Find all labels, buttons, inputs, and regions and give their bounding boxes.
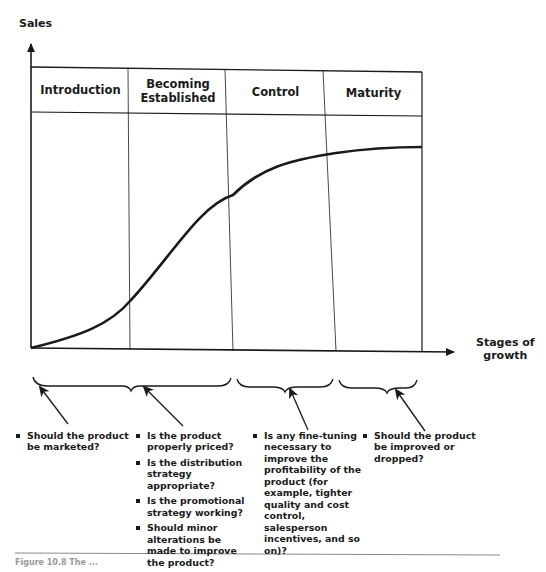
question-item: Should the product be improved or droppe… (362, 430, 482, 464)
stage-introduction: Introduction (32, 69, 129, 113)
question-item: Is the promotional strategy working? (135, 495, 253, 518)
arrow-maturity-icon (396, 390, 425, 431)
y-axis-label: Sales (19, 17, 52, 30)
x-axis-label-line1: Stages of (476, 336, 535, 349)
x-axis (31, 348, 454, 352)
questions-maturity: Should the product be improved or droppe… (362, 430, 482, 468)
questions-becoming-established: Is the product properly priced? Is the d… (135, 430, 253, 572)
question-item: Is the distribution strategy appropriate… (135, 457, 253, 491)
pointer-arrows (40, 387, 425, 431)
questions-introduction: Should the product be marketed? (15, 430, 133, 457)
stage-control: Control (227, 71, 324, 115)
question-item: Should minor alterations be made to impr… (135, 522, 253, 568)
questions-control: Is any fine-tuning necessary to improve … (252, 430, 364, 560)
stage-becoming-established: Becoming Established (130, 70, 226, 114)
stage-braces (33, 377, 417, 393)
figure-caption: Figure 10.8 The ... (15, 558, 98, 567)
stage-maturity: Maturity (325, 72, 422, 116)
x-axis-label: Stages of growth (476, 336, 535, 362)
arrow-introduction-icon (40, 387, 68, 424)
arrow-established-icon (144, 387, 183, 426)
arrow-control-icon (290, 389, 308, 430)
sales-curve (31, 147, 422, 348)
question-item: Is any fine-tuning necessary to improve … (252, 430, 364, 556)
question-item: Is the product properly priced? (135, 430, 253, 453)
question-item: Should the product be marketed? (15, 430, 133, 453)
x-axis-label-line2: growth (476, 349, 535, 362)
